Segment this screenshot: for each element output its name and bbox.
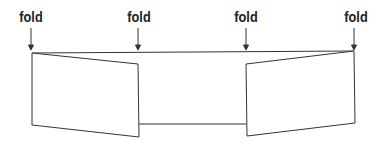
arrow-down-icon (136, 28, 141, 50)
folded-brochure-diagram (0, 0, 381, 144)
left-panel (32, 53, 139, 137)
right-panel (246, 51, 355, 136)
arrow-down-icon (352, 28, 357, 50)
fold-label: fold (127, 8, 150, 25)
fold-label: fold (234, 8, 257, 25)
fold-label: fold (19, 8, 42, 25)
arrow-down-icon (244, 28, 249, 50)
fold-label: fold (344, 8, 367, 25)
arrow-down-icon (29, 28, 34, 50)
back-panel-top-edge (32, 51, 354, 53)
